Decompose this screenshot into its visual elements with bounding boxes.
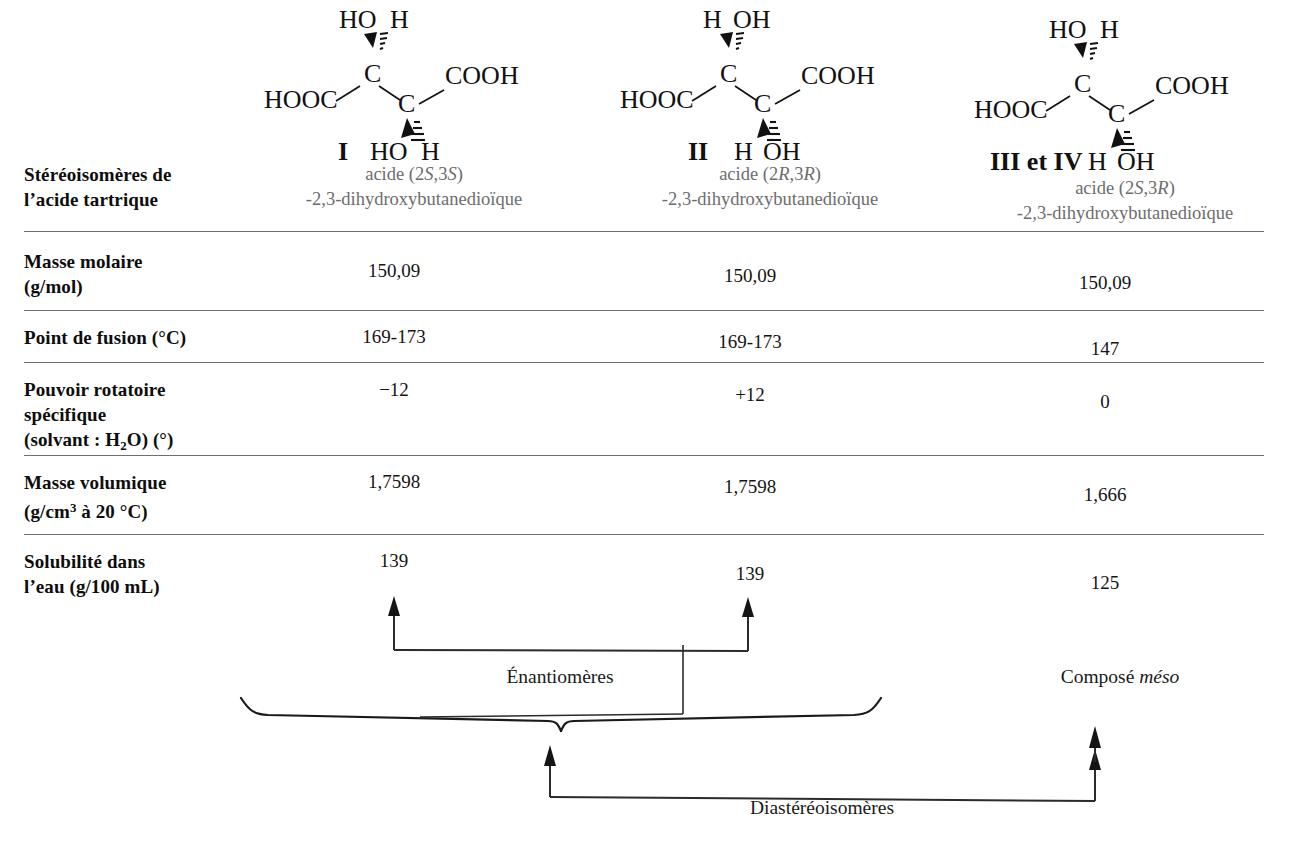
annotation-meso-compound: Composé méso: [970, 666, 1270, 688]
enantiomers-bracket: [394, 604, 748, 651]
annotation-connectors: [0, 0, 1289, 841]
meso-arrowhead: [1089, 726, 1101, 748]
annotation-diastereomers: Diastéréoisomères: [672, 797, 972, 819]
annotation-enantiomers: Énantiomères: [410, 666, 710, 688]
tartaric-acid-stereoisomers-table: HO H C HOOC C COOH: [0, 0, 1289, 841]
enantiomers-arrowhead-right: [742, 597, 754, 617]
diastereomers-bracket: [550, 757, 1095, 801]
diastereomers-curly-brace: [241, 698, 881, 731]
diastereomers-arrowhead-left: [544, 745, 556, 766]
enantiomers-arrowhead-left: [388, 596, 400, 616]
